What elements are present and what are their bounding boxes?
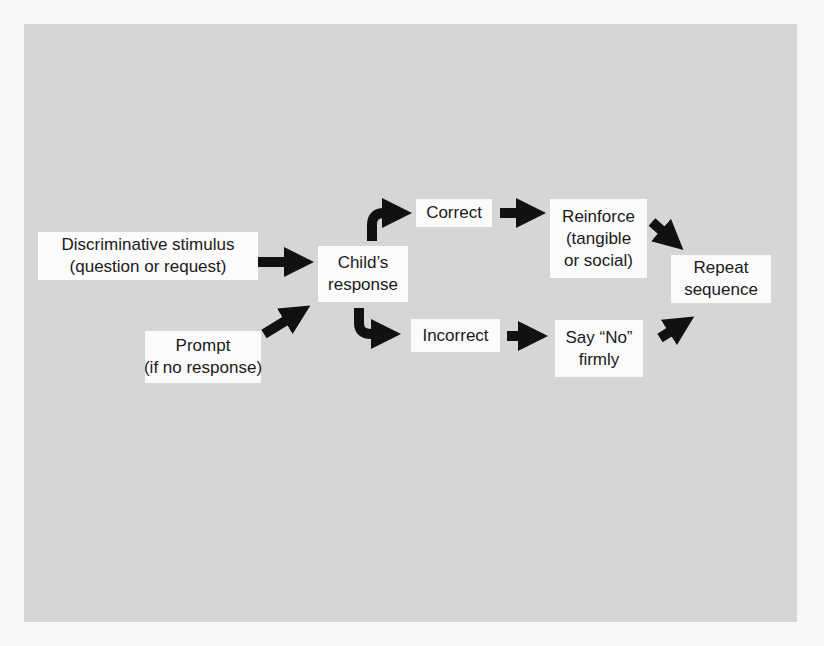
node-label-line: firmly [579, 349, 620, 371]
node-prompt: Prompt (if no response) [145, 331, 261, 383]
node-childs-response: Child’s response [318, 246, 408, 302]
node-label-line: (question or request) [70, 256, 227, 278]
node-discriminative-stimulus: Discriminative stimulus (question or req… [38, 232, 258, 280]
node-correct: Correct [416, 199, 492, 227]
arrow-response-to-incorrect [359, 308, 383, 334]
node-label-line: (tangible [566, 228, 631, 250]
node-label-line: Say “No” [565, 327, 632, 349]
node-label-line: Discriminative stimulus [62, 234, 235, 256]
arrow-response-to-correct [372, 213, 394, 241]
node-label-line: Correct [426, 202, 482, 224]
arrow-prompt-to-response [264, 315, 295, 334]
node-label-line: or social) [564, 250, 633, 272]
node-label-line: (if no response) [144, 357, 262, 379]
node-label-line: Repeat [694, 257, 749, 279]
node-label-line: sequence [684, 279, 758, 301]
node-reinforce: Reinforce (tangible or social) [550, 199, 647, 278]
arrow-sayno-to-repeat [660, 326, 679, 338]
node-label-line: response [328, 274, 398, 296]
node-say-no-firmly: Say “No” firmly [555, 320, 643, 377]
node-label-line: Child’s [338, 252, 389, 274]
node-label-line: Incorrect [422, 325, 488, 347]
node-incorrect: Incorrect [411, 319, 500, 352]
node-label-line: Prompt [176, 335, 231, 357]
arrow-reinforce-to-repeat [652, 222, 670, 238]
node-repeat-sequence: Repeat sequence [671, 255, 771, 303]
node-label-line: Reinforce [562, 206, 635, 228]
